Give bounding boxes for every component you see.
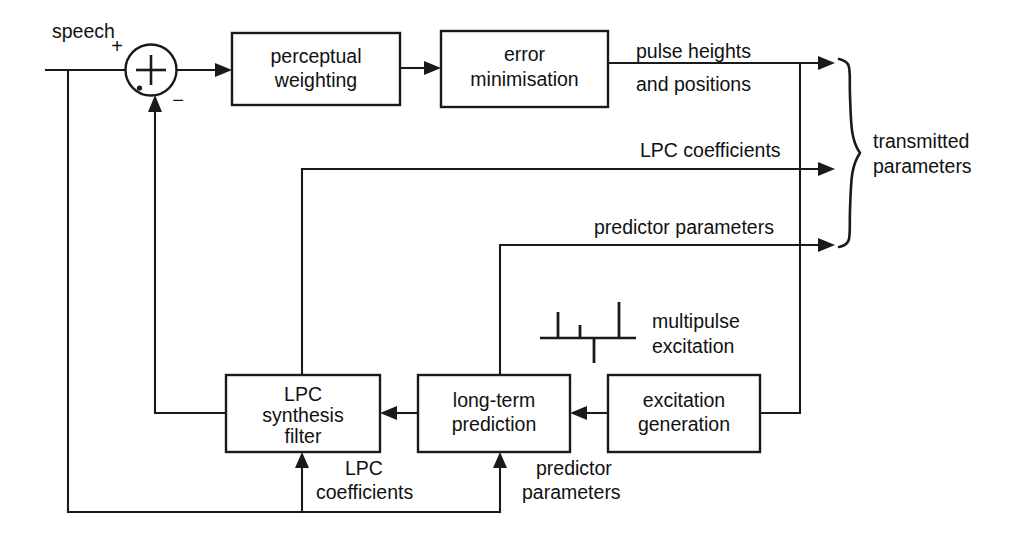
- label-multipulse-line1: multipulse: [652, 310, 740, 332]
- block-excitation-generation-line1: excitation: [643, 389, 725, 411]
- block-lpc-synthesis-filter-line3: filter: [285, 425, 322, 447]
- wire-summer-to-perceptual-weighting: [176, 63, 232, 77]
- label-summer-plus: +: [111, 35, 123, 57]
- summing-junction: [126, 45, 177, 96]
- label-predictor-parameters-mid: predictor parameters: [594, 216, 774, 238]
- label-transmitted-line1: transmitted: [873, 130, 969, 152]
- wire-predictor-parameters-riser: [493, 452, 507, 512]
- transmitted-parameters-brace: [839, 59, 860, 247]
- label-multipulse-line2: excitation: [652, 335, 734, 357]
- wire-excitation-to-longterm: [570, 406, 608, 420]
- wire-lpc-coefficients-to-brace: [302, 162, 835, 375]
- block-long-term-prediction-line1: long-term: [453, 389, 535, 411]
- label-summer-minus: −: [172, 89, 184, 111]
- wire-perceptual-to-error: [400, 61, 441, 75]
- wire-lpc-coefficients-riser: [295, 452, 309, 512]
- block-error-minimisation-line1: error: [504, 43, 546, 65]
- block-perceptual-weighting[interactable]: perceptual weighting: [232, 33, 400, 105]
- block-lpc-synthesis-filter-line1: LPC: [284, 383, 322, 405]
- label-pulse-heights-line2: and positions: [636, 73, 751, 95]
- diagram-svg: perceptual weighting error minimisation …: [0, 0, 1021, 540]
- label-lpc-coefficients-bottom-line2: coefficients: [316, 481, 413, 503]
- block-error-minimisation-line2: minimisation: [470, 68, 578, 90]
- block-long-term-prediction-line2: prediction: [452, 413, 537, 435]
- block-excitation-generation-line2: generation: [638, 413, 730, 435]
- block-lpc-synthesis-filter[interactable]: LPC synthesis filter: [226, 375, 380, 452]
- block-lpc-synthesis-filter-line2: synthesis: [262, 404, 344, 426]
- label-lpc-coefficients-bottom-line1: LPC: [345, 457, 383, 479]
- label-predictor-parameters-bottom-line2: parameters: [522, 481, 621, 503]
- block-error-minimisation[interactable]: error minimisation: [441, 31, 608, 107]
- wire-longterm-to-lpcfilter: [380, 406, 418, 420]
- multipulse-waveform-icon: [540, 302, 636, 363]
- block-perceptual-weighting-line1: perceptual: [270, 45, 361, 67]
- label-speech: speech: [52, 20, 115, 42]
- label-predictor-parameters-bottom-line1: predictor: [536, 457, 612, 479]
- label-pulse-heights-line1: pulse heights: [636, 40, 751, 62]
- block-diagram-canvas: perceptual weighting error minimisation …: [0, 0, 1021, 540]
- wire-lpcfilter-feedback-to-summer: [148, 95, 226, 413]
- label-lpc-coefficients-top: LPC coefficients: [640, 139, 781, 161]
- block-excitation-generation[interactable]: excitation generation: [608, 375, 760, 452]
- label-transmitted-line2: parameters: [873, 155, 972, 177]
- block-perceptual-weighting-line2: weighting: [274, 69, 357, 91]
- block-long-term-prediction[interactable]: long-term prediction: [418, 375, 570, 452]
